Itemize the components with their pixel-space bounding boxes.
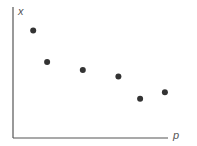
data-point xyxy=(80,67,86,73)
data-point xyxy=(44,59,50,65)
data-point xyxy=(162,89,168,95)
x-axis-label: p xyxy=(173,130,179,141)
data-point xyxy=(137,96,143,102)
scatter-chart xyxy=(0,0,197,146)
y-axis-label: x xyxy=(18,6,24,17)
data-point xyxy=(30,28,36,34)
data-points xyxy=(30,28,168,102)
data-point xyxy=(115,73,121,79)
